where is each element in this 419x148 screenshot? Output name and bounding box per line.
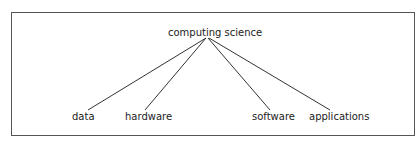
edge-root-hardware — [145, 38, 206, 110]
node-applications: applications — [309, 111, 369, 123]
node-hardware: hardware — [125, 111, 172, 123]
node-software: software — [252, 111, 295, 123]
edge-root-software — [208, 38, 270, 110]
node-data: data — [72, 111, 95, 123]
edge-root-data — [88, 38, 206, 110]
node-root: computing science — [168, 27, 262, 39]
tree-links — [0, 0, 419, 148]
edge-root-applications — [209, 38, 330, 110]
